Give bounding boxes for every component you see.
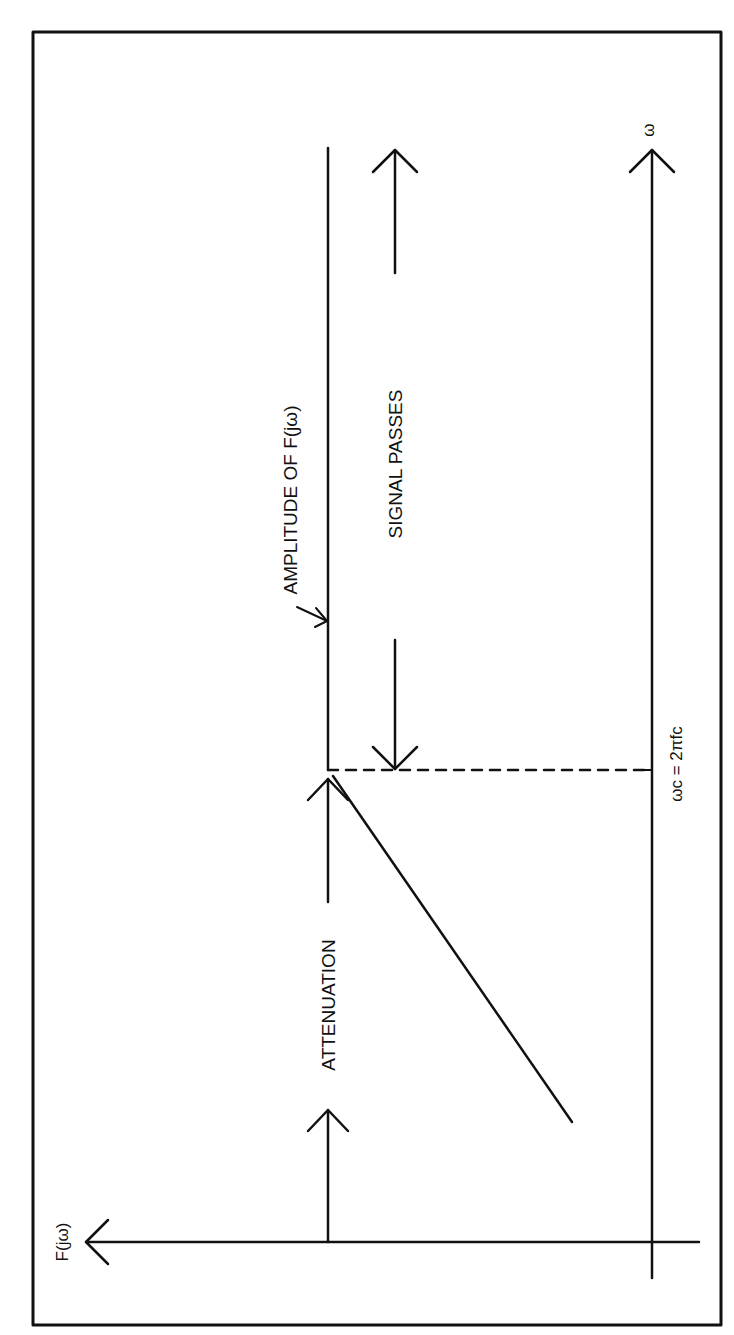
low-pass-filter-diagram: AMPLITUDE OF F(jω) SIGNAL PASSES ATTENUA…	[0, 0, 734, 1335]
cutoff-frequency-label: ωc = 2πfc	[667, 726, 686, 802]
attenuation-upper-arrow	[308, 779, 348, 902]
f-jw-axis-label: F(jω)	[53, 1223, 72, 1262]
frequency-axis	[630, 150, 674, 1278]
amplitude-label: AMPLITUDE OF F(jω)	[280, 406, 301, 595]
signal-passes-upper-arrow	[373, 150, 417, 273]
signal-passes-lower-arrow	[373, 640, 417, 769]
amplitude-pointer-arrow	[297, 607, 327, 627]
attenuation-lower-arrow	[308, 1110, 348, 1242]
attenuation-slope-line	[333, 776, 572, 1122]
signal-passes-label: SIGNAL PASSES	[385, 390, 406, 539]
amplitude-axis	[86, 1220, 699, 1264]
omega-axis-label: ω	[639, 123, 658, 136]
frame-border	[33, 32, 721, 1325]
attenuation-label: ATTENUATION	[318, 939, 339, 1070]
